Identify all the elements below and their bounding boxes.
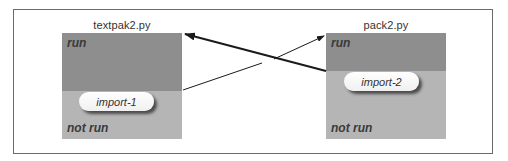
arrows-layer — [0, 0, 508, 161]
arrow-import1-to-pack2 — [183, 36, 324, 90]
